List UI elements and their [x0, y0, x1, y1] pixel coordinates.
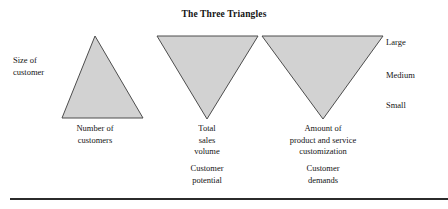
- caption-total-sales-volume-line2: sales: [160, 135, 254, 147]
- subcaption-customer-potential-line1: Customer: [160, 163, 254, 175]
- caption-product-customization-line1: Amount of: [253, 123, 393, 135]
- three-triangles-figure: The Three Triangles Size of customer Lar…: [0, 0, 448, 209]
- figure-bottom-rule: [10, 198, 448, 200]
- subcaption-customer-demands-line1: Customer: [258, 163, 388, 175]
- axis-label-size-of-customer: Size of customer: [13, 55, 44, 78]
- scale-label-large: Large: [386, 37, 406, 49]
- scale-label-medium: Medium: [386, 70, 415, 82]
- triangle-down-product-customization: [262, 36, 383, 119]
- subcaption-customer-demands: Customer demands: [258, 163, 388, 186]
- caption-total-sales-volume: Total sales volume: [160, 123, 254, 158]
- triangle-down-total-sales-volume: [157, 36, 258, 119]
- triangle-up-size-of-customer: [62, 36, 143, 118]
- caption-number-of-customers: Number of customers: [47, 123, 143, 146]
- caption-total-sales-volume-line3: volume: [160, 146, 254, 158]
- caption-number-of-customers-line2: customers: [47, 135, 143, 147]
- caption-product-customization-line2: product and service: [253, 135, 393, 147]
- caption-product-customization-line3: customization: [253, 146, 393, 158]
- axis-label-size-of-customer-line1: Size of: [13, 55, 44, 67]
- caption-number-of-customers-line1: Number of: [47, 123, 143, 135]
- caption-product-customization: Amount of product and service customizat…: [253, 123, 393, 158]
- subcaption-customer-potential-line2: potential: [160, 175, 254, 187]
- caption-total-sales-volume-line1: Total: [160, 123, 254, 135]
- scale-label-small: Small: [386, 100, 406, 112]
- axis-label-size-of-customer-line2: customer: [13, 67, 44, 79]
- subcaption-customer-potential: Customer potential: [160, 163, 254, 186]
- subcaption-customer-demands-line2: demands: [258, 175, 388, 187]
